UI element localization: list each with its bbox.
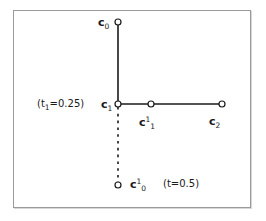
- annotation-t1: (t1=0.25): [37, 99, 84, 112]
- point-marker-c2: [219, 101, 225, 107]
- point-marker-c1: [115, 101, 121, 107]
- annotation-t1-close: ): [80, 98, 84, 109]
- point-marker-c0: [115, 19, 121, 25]
- annotation-t1-equals: =0.25: [50, 98, 81, 109]
- point-marker-c1-sup1: [148, 101, 154, 107]
- label-c1: c1: [101, 99, 112, 113]
- annotation-t-close: ): [195, 178, 199, 189]
- annotation-t: (t=0.5): [163, 179, 199, 189]
- label-c0-sup1-subscript: 0: [141, 184, 146, 193]
- label-c1-sup1-subscript: 1: [150, 122, 155, 131]
- label-c1-sup1: c11: [139, 116, 155, 131]
- point-marker-c0-sup1: [115, 182, 121, 188]
- label-c0-sup1: c10: [130, 178, 146, 193]
- label-c0-subscript: 0: [105, 22, 110, 31]
- label-c1-subscript: 1: [108, 104, 113, 113]
- label-c2-subscript: 2: [216, 121, 221, 130]
- bezier-subdivision-figure: c0 (t1=0.25) c1 c11 c2 c10 (t=0.5): [0, 0, 266, 221]
- label-c2: c2: [209, 116, 220, 130]
- label-c0: c0: [98, 17, 109, 31]
- annotation-t-equals: =0.5: [171, 178, 195, 189]
